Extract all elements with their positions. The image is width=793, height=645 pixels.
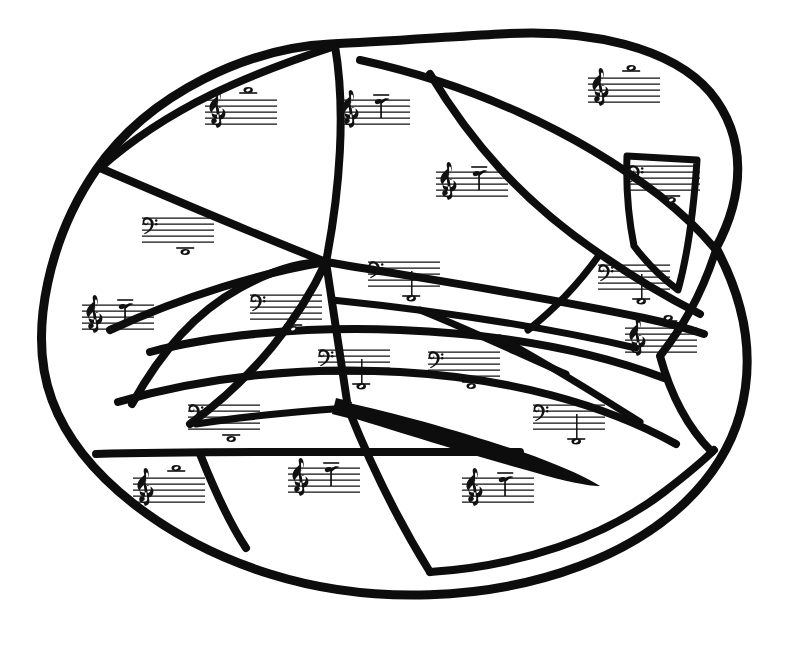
divider-cell-d	[528, 254, 600, 330]
treble-clef-icon	[86, 295, 102, 333]
staff-treble-clef	[588, 65, 660, 106]
treble-clef-icon	[440, 162, 456, 200]
treble-clef-icon	[466, 468, 482, 506]
divider-lower-left	[96, 452, 520, 454]
coloring-page-canvas	[0, 0, 793, 645]
divider-top-spine	[326, 46, 341, 262]
whole-note	[226, 436, 236, 442]
treble-clef-icon	[592, 68, 608, 106]
staff-treble-clef	[462, 468, 534, 506]
region-divider-lines	[96, 46, 716, 572]
divider-bottom-left	[200, 454, 246, 548]
whole-note	[626, 65, 636, 71]
treble-clef-icon	[342, 90, 358, 128]
divider-ray-down	[326, 262, 348, 408]
staff-layer	[82, 65, 700, 506]
whole-note	[663, 315, 673, 321]
whole-note	[356, 383, 366, 389]
bass-clef-icon	[534, 404, 549, 421]
whole-note	[466, 383, 476, 389]
staff-treble-clef	[288, 458, 360, 496]
bass-clef-icon	[319, 349, 334, 366]
whole-note	[636, 298, 646, 304]
whole-note	[180, 249, 190, 255]
staff-bass-clef	[188, 404, 260, 442]
treble-clef-icon	[292, 458, 308, 496]
whole-note	[666, 197, 676, 203]
whole-note	[571, 438, 581, 444]
whole-note	[243, 87, 253, 93]
high-note	[324, 466, 340, 486]
staff-treble-clef	[338, 90, 410, 128]
staff-treble-clef	[133, 465, 205, 506]
divider-upper-right-sweep	[100, 168, 326, 262]
staff-treble-clef	[205, 87, 277, 128]
bass-clef-icon	[143, 217, 158, 234]
high-note	[498, 476, 514, 496]
bass-clef-icon	[251, 294, 266, 311]
treble-clef-icon	[137, 468, 153, 506]
whole-note	[171, 465, 181, 471]
staff-bass-clef	[142, 217, 214, 255]
whole-note	[406, 295, 416, 301]
bass-clef-icon	[599, 264, 614, 281]
high-note	[472, 170, 488, 190]
line-art-illustration	[0, 0, 793, 645]
whole-note	[288, 326, 298, 332]
bass-clef-icon	[429, 351, 444, 368]
high-note	[374, 98, 390, 118]
